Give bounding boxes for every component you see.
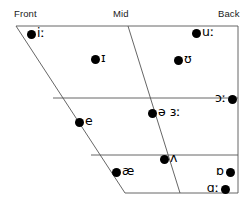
vowel-symbol-near-close-front: ɪ (101, 52, 106, 65)
vowel-symbol-close-back-long: uː (202, 26, 214, 39)
vowel-chart: Front Mid Back iːɪuːʊɔːə ɜːeʌæɒɑː (0, 0, 252, 207)
vowel-dot-close-back-long (192, 29, 201, 38)
vowel-symbol-open-mid-central: ʌ (170, 152, 177, 165)
vowel-symbol-near-close-back: ʊ (184, 53, 192, 66)
vowel-symbol-close-mid-front: e (85, 115, 93, 128)
vowel-dot-mid-central (148, 109, 157, 118)
vowel-dot-close-front-long (27, 30, 36, 39)
vowel-dot-open-mid-central (160, 155, 169, 164)
vowel-dot-near-open-front (112, 168, 121, 177)
vowel-dot-near-close-back (174, 56, 183, 65)
vowel-dot-close-mid-front (75, 118, 84, 127)
vowel-symbol-open-back-rounded: ɒ (216, 165, 224, 178)
vowel-symbol-open-mid-back-long: ɔː (215, 92, 226, 105)
vowel-symbol-open-back-long: ɑː (207, 182, 219, 195)
vowel-symbol-near-open-front: æ (122, 165, 134, 178)
vowel-symbol-close-front-long: iː (37, 27, 45, 40)
vowel-symbol-mid-central: ə ɜː (158, 106, 181, 119)
vowel-dot-open-back-rounded (226, 168, 235, 177)
vowel-dot-open-back-long (221, 185, 230, 194)
vowel-dot-near-close-front (91, 55, 100, 64)
vowel-dot-open-mid-back-long (228, 95, 237, 104)
horizontal-divider-lines (53, 98, 238, 155)
